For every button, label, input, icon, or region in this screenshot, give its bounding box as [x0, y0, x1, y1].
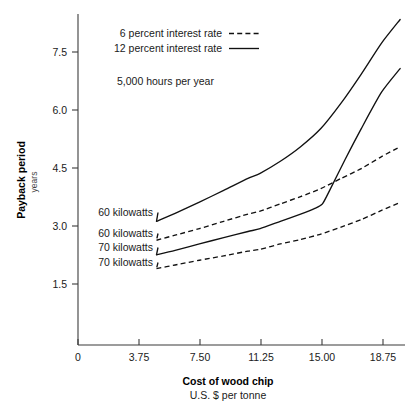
- x-tick-label: 15.00: [309, 351, 335, 363]
- legend-label-6-percent: 6 percent interest rate: [120, 27, 222, 39]
- series-callout-70kw-dashed: 70 kilowatts: [98, 256, 153, 268]
- y-axis-ticks: 7.5 6.0 4.5 3.0 1.5: [52, 46, 78, 290]
- series-callout-60kw-dashed: 60 kilowatts: [98, 227, 153, 239]
- x-tick-label: 3.75: [129, 351, 150, 363]
- x-tick-label: 7.50: [190, 351, 211, 363]
- x-axis-subtitle: U.S. $ per tonne: [190, 389, 267, 401]
- series-line-70kw-6pct: [157, 202, 401, 268]
- y-tick-label: 3.0: [52, 220, 67, 232]
- y-tick-label: 4.5: [52, 162, 67, 174]
- axes: [78, 14, 405, 345]
- y-axis-title: Payback period: [15, 141, 27, 219]
- x-tick-label: 18.75: [370, 351, 396, 363]
- series-callouts: 60 kilowatts 60 kilowatts 70 kilowatts 7…: [98, 206, 153, 268]
- series-line-70kw-12pct: [157, 69, 401, 255]
- data-series-group: [157, 19, 401, 268]
- chart-figure: 7.5 6.0 4.5 3.0 1.5 0 3.75 7.50 11.25 15…: [0, 0, 413, 410]
- x-axis-title: Cost of wood chip: [183, 375, 274, 387]
- legend-label-12-percent: 12 percent interest rate: [114, 42, 222, 54]
- x-tick-label: 0: [75, 351, 81, 363]
- x-axis-ticks: 0 3.75 7.50 11.25 15.00 18.75: [75, 339, 396, 363]
- series-callout-60kw-solid: 60 kilowatts: [98, 206, 153, 218]
- y-tick-label: 6.0: [52, 104, 67, 116]
- legend: 6 percent interest rate 12 percent inter…: [114, 27, 259, 54]
- series-line-60kw-6pct: [157, 147, 401, 240]
- series-callout-70kw-solid: 70 kilowatts: [98, 241, 153, 253]
- hours-per-year-note: 5,000 hours per year: [117, 75, 214, 87]
- payback-period-line-chart: 7.5 6.0 4.5 3.0 1.5 0 3.75 7.50 11.25 15…: [0, 0, 413, 410]
- y-tick-label: 1.5: [52, 278, 67, 290]
- y-axis-subtitle: years: [29, 172, 39, 193]
- leader-60kw-solid: [157, 213, 158, 222]
- y-tick-label: 7.5: [52, 46, 67, 58]
- leader-70kw-solid: [157, 248, 158, 255]
- x-tick-label: 11.25: [248, 351, 274, 363]
